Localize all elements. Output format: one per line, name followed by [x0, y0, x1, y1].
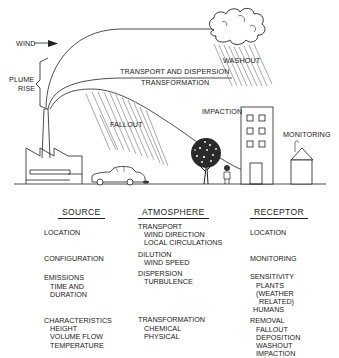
group-item: LOCAL CIRCULATIONS — [138, 239, 222, 247]
plume-rise-label-line2: RISE — [18, 85, 35, 93]
smokestack — [42, 109, 50, 158]
receptor-column: RECEPTOR LOCATION MONITORING SENSITIVITY… — [250, 201, 308, 358]
receptor-group-sensitivity: SENSITIVITY PLANTS (WEATHER RELATED) HUM… — [250, 273, 308, 314]
house — [291, 141, 313, 184]
group-title: MONITORING — [250, 255, 308, 263]
transformation-label: TRANSFORMATION — [141, 79, 209, 87]
fallout-label: FALLOUT — [110, 121, 143, 129]
monitoring-label: MONITORING — [283, 131, 331, 139]
group-item: TEMPERATURE — [44, 342, 112, 350]
group-item: IMPACTION — [250, 350, 308, 358]
atmosphere-group-transport: TRANSPORT WIND DIRECTION LOCAL CIRCULATI… — [138, 223, 222, 248]
source-column: SOURCE LOCATION CONFIGURATION EMISSIONS … — [44, 201, 112, 350]
receptor-heading: RECEPTOR — [250, 207, 308, 219]
atmosphere-group-dilution: DILUTION WIND SPEED — [138, 251, 222, 267]
wind-label: WIND — [16, 40, 36, 48]
factory — [26, 148, 82, 184]
building — [241, 107, 273, 184]
source-group-emissions: EMISSIONS TIME AND DURATION — [44, 274, 112, 299]
atmosphere-group-dispersion: DISPERSION TURBULENCE — [138, 270, 222, 286]
group-title: CONFIGURATION — [44, 255, 112, 263]
group-title: LOCATION — [250, 229, 308, 237]
atmosphere-heading: ATMOSPHERE — [138, 207, 209, 219]
source-heading: SOURCE — [58, 207, 105, 219]
pollution-scene — [0, 0, 339, 200]
impaction-label: IMPACTION — [202, 108, 242, 116]
group-item: WIND SPEED — [138, 259, 222, 267]
group-item: DURATION — [44, 291, 112, 299]
receptor-group-location: LOCATION — [250, 229, 308, 237]
source-group-configuration: CONFIGURATION — [44, 255, 112, 263]
transport-dispersion-label: TRANSPORT AND DISPERSION — [120, 68, 230, 76]
wind-arrow-head — [48, 40, 58, 47]
tree — [191, 138, 221, 184]
group-title: LOCATION — [44, 229, 112, 237]
receptor-group-removal: REMOVAL FALLOUT DEPOSITION WASHOUT IMPAC… — [250, 317, 308, 358]
cloud — [210, 8, 265, 44]
person — [224, 165, 230, 184]
receptor-group-monitoring: MONITORING — [250, 255, 308, 263]
source-group-location: LOCATION — [44, 229, 112, 237]
source-group-characteristics: CHARACTERISTICS HEIGHT VOLUME FLOW TEMPE… — [44, 317, 112, 350]
group-item: TURBULENCE — [138, 278, 222, 286]
atmosphere-group-transformation: TRANSFORMATION CHEMICAL PHYSICAL — [138, 316, 222, 341]
group-item: HUMANS — [250, 306, 308, 314]
atmosphere-column: ATMOSPHERE TRANSPORT WIND DIRECTION LOCA… — [138, 201, 222, 341]
group-item: PHYSICAL — [138, 333, 222, 341]
washout-label: WASHOUT — [223, 57, 260, 65]
car — [92, 167, 149, 186]
